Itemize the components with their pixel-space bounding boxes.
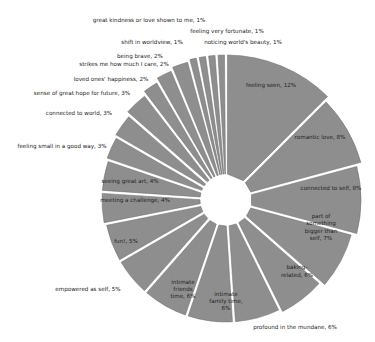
slice-label: feeling seen, 12% (246, 82, 296, 89)
slice-label: connected to world, 3% (46, 110, 112, 116)
slice-label: great kindness or love shown to me, 1% (93, 17, 206, 24)
slice-label: connected to self, 8% (301, 185, 362, 191)
slice-label: loved ones' happiness, 2% (74, 76, 149, 83)
slice-label: sense of great hope for future, 3% (34, 90, 130, 97)
slice-label: shift in worldview, 1% (121, 39, 182, 45)
slice-label: fun!, 5% (114, 238, 138, 244)
slice-label: feeling very fortunate, 1% (190, 28, 263, 35)
slice-label: profound in the mundane, 6% (253, 324, 337, 331)
slice-label: feeling small in a good way, 3% (17, 143, 106, 150)
slice-label: romantic love, 8% (295, 134, 346, 140)
slice-label: seeing great art, 4% (101, 178, 158, 185)
slice-label: being brave, 2% (117, 53, 163, 60)
slice-label: intimatefriendstime, 6% (170, 279, 195, 299)
slice-label: empowered as self, 5% (55, 286, 120, 293)
slice-label: meeting a challenge, 4% (100, 197, 170, 204)
slice-label: noticing world's beauty, 1% (204, 39, 282, 46)
rose-pie-chart: feeling seen, 12%romantic love, 8%connec… (0, 0, 375, 342)
slice-label: strikes me how much I care, 2% (79, 61, 169, 67)
